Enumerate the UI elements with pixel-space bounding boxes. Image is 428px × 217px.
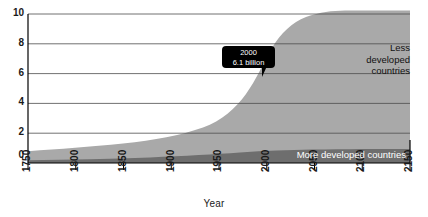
y-tick-label-8: 8 — [6, 38, 24, 48]
y-tick-label-0: 0 — [6, 150, 24, 160]
callout-population: 6.1 billion — [222, 58, 275, 68]
x-tick-label-1900: 1900 — [166, 150, 176, 172]
population-area-chart — [0, 0, 428, 217]
annotation-callout-2000: 2000 6.1 billion — [222, 46, 275, 68]
y-tick-label-6: 6 — [6, 68, 24, 78]
callout-year: 2000 — [222, 48, 275, 58]
x-axis-title: Year — [0, 198, 428, 209]
y-tick-label-10: 10 — [6, 8, 24, 18]
x-tick-label-2000: 2000 — [261, 150, 271, 172]
x-tick-label-1850: 1850 — [118, 150, 128, 172]
less-developed-area — [28, 10, 410, 163]
y-tick-label-4: 4 — [6, 97, 24, 107]
x-tick-label-1950: 1950 — [213, 150, 223, 172]
series-label-more-developed: More developed countries — [297, 149, 406, 160]
chart-container: 10 8 6 4 2 0 1750 1800 1850 1900 1950 20… — [0, 0, 428, 217]
series-label-less-developed: Less developed countries — [366, 42, 410, 77]
x-tick-label-1800: 1800 — [70, 150, 80, 172]
y-tick-label-2: 2 — [6, 127, 24, 137]
callout-pointer — [262, 66, 267, 77]
